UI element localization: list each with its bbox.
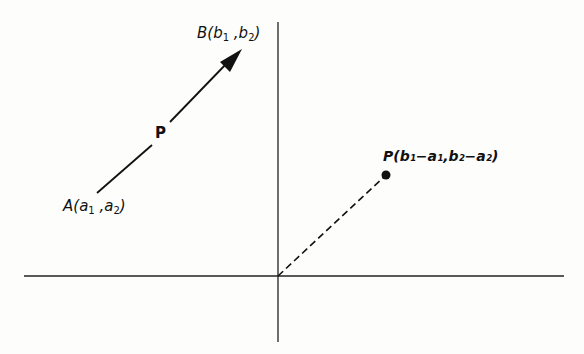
label-point-a: A(a1 ,a2) [63,197,126,216]
vector-ab-segment-lower [97,145,152,193]
position-vector-dashed [278,175,386,276]
diagram-graphics [0,0,584,354]
vector-diagram: B(b1 ,b2) P A(a1 ,a2) P(b₁−a₁,b₂−a₂) [0,0,584,354]
point-dot [382,171,391,180]
arrowhead-icon [220,49,242,72]
label-translated-point: P(b₁−a₁,b₂−a₂) [383,148,498,164]
label-point-b: B(b1 ,b2) [197,24,260,43]
vector-ab-segment-upper [170,62,228,122]
label-vector-p: P [155,124,166,142]
